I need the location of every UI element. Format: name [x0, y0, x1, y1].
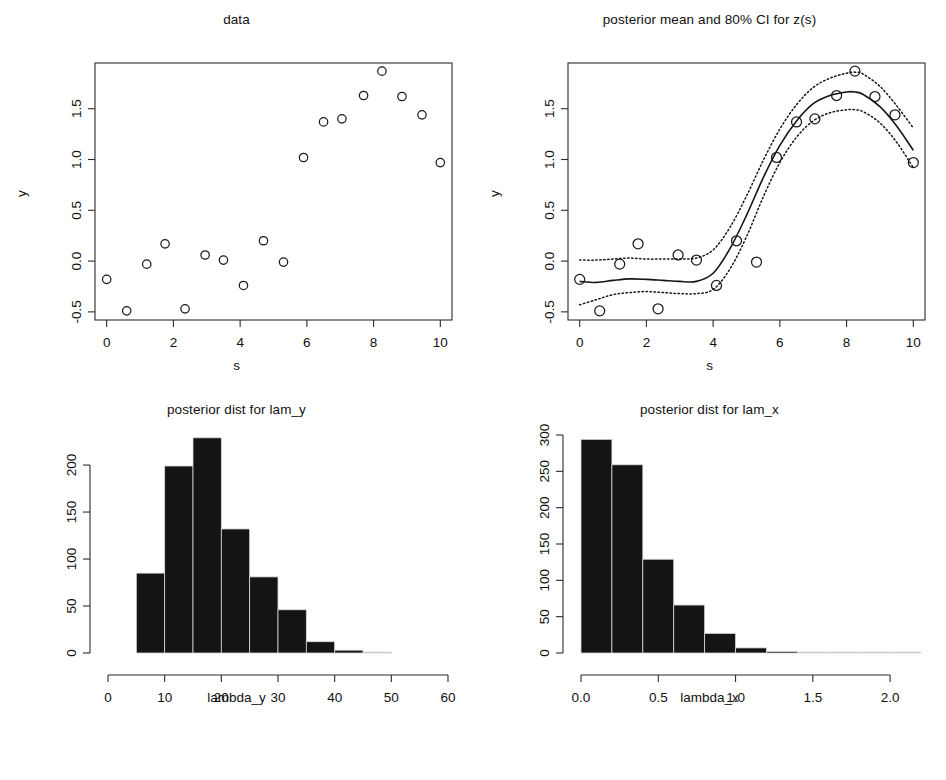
data-point — [259, 237, 267, 245]
x-tick-label: 0 — [103, 335, 111, 350]
y-tick-label: 250 — [537, 460, 552, 483]
ci-band-curve — [580, 109, 914, 304]
data-point — [653, 304, 663, 314]
histogram-bar — [736, 648, 767, 653]
y-tick-label: 0 — [537, 649, 552, 657]
histogram-bar — [193, 438, 221, 653]
data-point — [870, 92, 880, 102]
data-point — [378, 67, 386, 75]
histogram-bar — [250, 577, 278, 653]
y-axis: -0.50.00.51.01.5 — [542, 99, 568, 323]
panel-lam-x-xlabel: lambda_x — [473, 690, 946, 705]
histogram-bar — [890, 652, 921, 653]
histogram-bar — [828, 652, 859, 653]
ci-band-curve — [580, 72, 914, 260]
data-point — [359, 91, 367, 99]
data-point — [615, 259, 625, 269]
histogram-bar — [335, 650, 363, 653]
panel-lam-x: posterior dist for lam_x 0.00.51.01.52.0… — [473, 390, 946, 780]
x-axis: 0246810 — [103, 320, 448, 350]
data-point — [418, 111, 426, 119]
y-axis: -0.50.00.51.01.5 — [69, 99, 95, 323]
data-point — [279, 258, 287, 266]
y-tick-label: 150 — [537, 533, 552, 556]
panel-posterior-plot: 0246810-0.50.00.51.01.5 — [473, 0, 946, 390]
histogram-bar — [705, 633, 736, 653]
data-point — [436, 158, 444, 166]
data-point — [181, 305, 189, 313]
y-tick-label: 150 — [64, 501, 79, 524]
y-tick-label: 1.0 — [69, 150, 84, 169]
data-point — [239, 281, 247, 289]
y-tick-label: 0.0 — [69, 252, 84, 271]
data-point — [161, 240, 169, 248]
histogram-bar — [306, 642, 334, 653]
data-point — [123, 307, 131, 315]
y-tick-label: -0.5 — [542, 300, 557, 323]
panel-lam-y: posterior dist for lam_y 010203040506005… — [0, 390, 473, 780]
x-tick-label: 6 — [303, 335, 311, 350]
panel-lam-y-xlabel: lambda_y — [0, 690, 473, 705]
data-point — [633, 239, 643, 249]
y-tick-label: 0.5 — [69, 201, 84, 220]
histogram-bar — [797, 652, 828, 653]
histogram-bar — [859, 652, 890, 653]
y-axis: 050100150200 — [64, 454, 90, 657]
data-point — [319, 118, 327, 126]
y-tick-label: 200 — [64, 454, 79, 477]
panel-lam-y-plot: 0102030405060050100150200 — [0, 390, 473, 780]
data-point — [219, 256, 227, 264]
data-point — [398, 92, 406, 100]
histogram-bar — [221, 529, 249, 653]
data-point — [575, 274, 585, 284]
y-tick-label: 1.5 — [542, 99, 557, 118]
y-tick-label: 50 — [64, 599, 79, 614]
plot-frame — [95, 63, 452, 320]
panel-posterior-ylabel: y — [487, 190, 502, 197]
data-point — [338, 115, 346, 123]
y-axis: 050100150200250300 — [537, 424, 563, 657]
histogram-bar — [165, 466, 193, 653]
histogram-bar — [643, 559, 674, 653]
data-point — [832, 91, 842, 101]
histogram-bars — [581, 439, 921, 653]
data-point — [201, 251, 209, 259]
histogram-bar — [581, 439, 612, 653]
histogram-bar — [136, 573, 164, 653]
r-multipanel-figure: data 0246810-0.50.00.51.01.5 s y posteri… — [0, 0, 946, 780]
data-point — [673, 250, 683, 260]
data-point — [595, 306, 605, 316]
panel-data-ylabel: y — [14, 190, 29, 197]
x-tick-label: 8 — [843, 335, 851, 350]
y-tick-label: 0.5 — [542, 201, 557, 220]
x-tick-label: 2 — [643, 335, 651, 350]
posterior-mean-curve — [580, 92, 914, 283]
histogram-bar — [674, 605, 705, 653]
data-point — [102, 275, 110, 283]
data-points — [102, 67, 444, 315]
data-point — [752, 257, 762, 267]
panel-data-xlabel: s — [0, 358, 473, 373]
y-tick-label: 100 — [64, 548, 79, 571]
histogram-bar — [278, 610, 306, 653]
y-tick-label: 1.0 — [542, 150, 557, 169]
histogram-bar — [612, 465, 643, 653]
y-tick-label: 300 — [537, 424, 552, 447]
histogram-bar — [766, 652, 797, 653]
x-axis: 0246810 — [576, 320, 921, 350]
x-tick-label: 2 — [170, 335, 178, 350]
x-tick-label: 0 — [576, 335, 584, 350]
panel-data: data 0246810-0.50.00.51.01.5 s y — [0, 0, 473, 390]
panel-posterior-xlabel: s — [473, 358, 946, 373]
x-tick-label: 8 — [370, 335, 378, 350]
x-tick-label: 10 — [433, 335, 448, 350]
y-tick-label: 0.0 — [542, 252, 557, 271]
y-tick-label: 200 — [537, 496, 552, 519]
data-point — [691, 255, 701, 265]
data-point — [299, 153, 307, 161]
x-tick-label: 10 — [906, 335, 921, 350]
y-tick-label: 0 — [64, 649, 79, 657]
data-point — [850, 66, 860, 76]
panel-posterior: posterior mean and 80% CI for z(s) 02468… — [473, 0, 946, 390]
data-point — [711, 280, 721, 290]
